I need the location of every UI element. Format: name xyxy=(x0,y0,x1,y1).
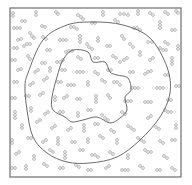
circle-marker xyxy=(18,151,21,154)
circle-marker xyxy=(159,24,162,27)
circle-marker xyxy=(73,84,76,87)
circle-marker xyxy=(175,127,178,130)
circle-marker xyxy=(162,49,165,52)
circle-marker xyxy=(14,117,17,120)
circle-marker xyxy=(25,165,28,168)
circle-marker xyxy=(11,59,14,62)
circle-marker xyxy=(171,60,174,63)
circle-marker xyxy=(46,165,49,168)
circle-marker xyxy=(77,112,80,115)
circle-marker xyxy=(83,124,86,127)
circle-marker xyxy=(102,137,105,140)
circle-marker xyxy=(177,45,180,48)
circle-marker xyxy=(147,117,150,120)
diagram-figure xyxy=(0,0,192,185)
circle-marker xyxy=(159,140,162,143)
circle-marker xyxy=(90,109,93,112)
circle-marker xyxy=(127,157,130,160)
circle-marker xyxy=(52,151,55,154)
circle-marker xyxy=(143,141,146,144)
circle-marker xyxy=(35,11,38,14)
circle-marker xyxy=(123,38,126,41)
circle-marker xyxy=(74,141,77,144)
circle-marker xyxy=(14,59,17,62)
circle-marker xyxy=(130,100,133,103)
circle-marker xyxy=(39,94,42,97)
circle-marker xyxy=(170,99,173,102)
circle-marker xyxy=(95,101,98,104)
circle-marker xyxy=(116,81,119,84)
circle-marker xyxy=(171,63,174,66)
circle-marker xyxy=(70,26,73,29)
circle-marker xyxy=(101,114,104,117)
circle-marker xyxy=(130,127,133,130)
circle-marker xyxy=(49,70,52,73)
circle-marker xyxy=(171,139,174,142)
circle-marker xyxy=(144,149,147,152)
circle-marker xyxy=(76,71,79,74)
circle-marker xyxy=(44,62,47,65)
circle-marker xyxy=(110,129,113,132)
circle-marker xyxy=(82,18,85,21)
plot-frame xyxy=(10,8,181,177)
circle-marker xyxy=(13,81,16,84)
circle-marker xyxy=(147,101,150,104)
circle-marker xyxy=(26,43,29,46)
circle-marker xyxy=(132,71,135,74)
circle-marker xyxy=(159,21,162,24)
circle-marker xyxy=(79,98,82,101)
circle-marker xyxy=(33,158,36,161)
circle-marker xyxy=(86,43,89,46)
circle-marker xyxy=(64,151,67,154)
circle-marker xyxy=(77,56,80,59)
circle-marker xyxy=(107,119,110,122)
circle-marker xyxy=(42,36,45,39)
circle-marker xyxy=(121,35,124,38)
circle-marker xyxy=(70,127,73,130)
circle-marker xyxy=(73,26,76,29)
circle-marker xyxy=(156,87,159,90)
circle-marker xyxy=(59,61,62,64)
circle-marker xyxy=(124,169,127,172)
circle-marker xyxy=(21,124,24,127)
circle-marker xyxy=(177,48,180,51)
circle-markers xyxy=(11,10,181,172)
circle-marker xyxy=(33,155,36,158)
circle-marker xyxy=(104,117,107,120)
circle-marker xyxy=(45,139,48,142)
circle-marker xyxy=(29,32,32,35)
circle-marker xyxy=(170,111,173,114)
circle-marker xyxy=(162,87,165,90)
circle-marker xyxy=(83,127,86,130)
circle-marker xyxy=(14,111,17,114)
circle-marker xyxy=(62,39,65,42)
circle-marker xyxy=(41,25,44,28)
circle-marker xyxy=(11,167,14,170)
circle-marker xyxy=(97,123,100,126)
circle-marker xyxy=(65,51,68,54)
circle-marker xyxy=(16,27,19,30)
circle-marker xyxy=(63,97,66,100)
circle-marker xyxy=(64,154,67,157)
circle-marker xyxy=(91,48,94,51)
circle-marker xyxy=(159,27,162,30)
circle-marker xyxy=(39,119,42,122)
circle-marker xyxy=(21,127,24,130)
circle-marker xyxy=(112,55,115,58)
circle-marker xyxy=(129,43,132,46)
circle-marker xyxy=(34,71,37,74)
circle-marker xyxy=(159,87,162,90)
circle-marker xyxy=(82,149,85,152)
circle-marker xyxy=(79,38,82,41)
circle-marker xyxy=(15,153,18,156)
circle-marker xyxy=(97,40,100,43)
circle-marker xyxy=(97,37,100,40)
circle-marker xyxy=(87,109,90,112)
circle-marker xyxy=(108,165,111,168)
circle-marker xyxy=(117,21,120,24)
circle-marker xyxy=(88,46,91,49)
circle-marker xyxy=(49,49,52,52)
circle-marker xyxy=(113,81,116,84)
circle-marker xyxy=(54,125,57,128)
circle-marker xyxy=(158,128,161,131)
